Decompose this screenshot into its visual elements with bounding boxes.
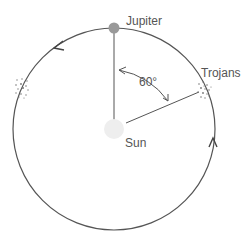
jupiter-planet xyxy=(109,23,120,34)
orbit-direction-arrow-icon xyxy=(209,138,217,147)
sun-star xyxy=(104,119,124,139)
angle-label: 60° xyxy=(139,75,157,89)
jupiter-label: Jupiter xyxy=(126,14,162,28)
sun-trojans-line xyxy=(126,92,199,123)
trojan-orbit-diagram: 60° Jupiter Sun Trojans xyxy=(0,0,248,245)
trojans-label: Trojans xyxy=(201,66,241,80)
sun-label: Sun xyxy=(125,136,146,150)
